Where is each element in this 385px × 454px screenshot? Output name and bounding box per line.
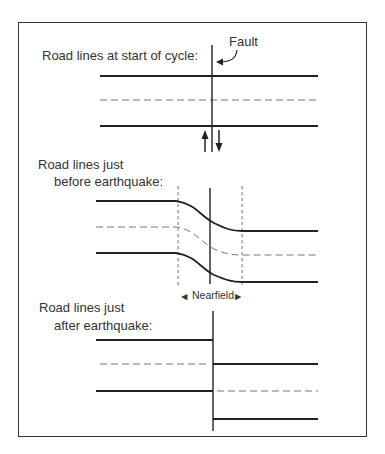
- fault-pointer-arrowhead: [216, 59, 223, 66]
- panel1-roads: [100, 76, 318, 126]
- diagram-drawing: [0, 0, 385, 454]
- fault-pointer-arrow: [222, 50, 237, 62]
- panel2-roads: [96, 201, 318, 282]
- panel3-roads-left: [96, 340, 213, 391]
- panel3-roads-right: [213, 364, 318, 419]
